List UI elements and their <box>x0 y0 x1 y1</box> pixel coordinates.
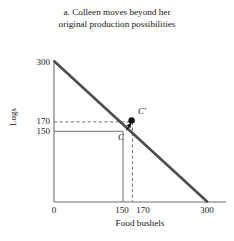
y-tick-label-170: 170 <box>14 116 50 126</box>
x-tick-label-170: 170 <box>130 205 156 215</box>
y-tick-label-150: 150 <box>14 126 50 136</box>
x-tick-label-300: 300 <box>194 205 220 215</box>
point-marker-c-prime <box>128 117 134 123</box>
ppf-chart-figure: a. Colleen moves beyond her original pro… <box>0 0 234 241</box>
y-axis-title: Logs <box>8 95 18 139</box>
y-tick-label-300: 300 <box>14 57 50 67</box>
point-label-c-prime: Cʹ <box>138 106 146 116</box>
x-tick-label-0: 0 <box>44 205 64 215</box>
point-label-c: C <box>118 132 124 142</box>
x-axis-title: Food bushels <box>54 218 226 228</box>
